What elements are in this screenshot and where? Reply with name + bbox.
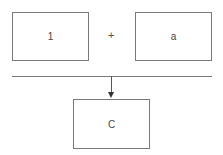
- input-box-a: a: [135, 12, 212, 61]
- arrow-down-icon: [108, 92, 114, 98]
- arrow-shaft: [111, 76, 112, 93]
- input-label-1: 1: [48, 31, 54, 42]
- input-box-1: 1: [12, 12, 89, 61]
- input-label-a: a: [171, 31, 177, 42]
- output-label-c: C: [108, 119, 115, 130]
- plus-operator: +: [108, 29, 114, 41]
- output-box-c: C: [73, 99, 150, 149]
- divider-line: [12, 76, 212, 77]
